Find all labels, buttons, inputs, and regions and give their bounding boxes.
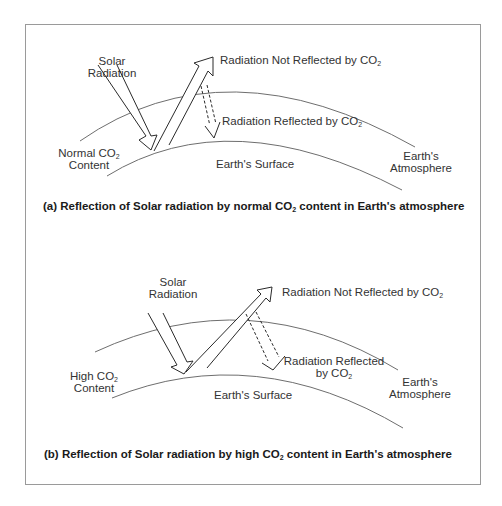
label-text: by CO: [316, 367, 349, 379]
label-text: Normal CO: [58, 147, 116, 159]
not-reflected-label: Radiation Not Reflected by CO2: [282, 286, 443, 298]
label-text: Radiation Not Reflected by CO: [282, 286, 439, 298]
subscript: 2: [439, 292, 443, 299]
diagram-canvas: [0, 0, 502, 506]
label-line: Normal CO2: [54, 147, 124, 159]
caption-text: content in Earth's atmosphere: [284, 448, 452, 460]
label-text: High CO: [70, 370, 114, 382]
solar-radiation-label: Solar Radiation: [147, 276, 199, 300]
subscript: 2: [377, 60, 381, 67]
earth-atmosphere-label: Earth's Atmosphere: [385, 376, 455, 400]
co2-content-label: High CO2 Content: [64, 370, 124, 394]
solar-radiation-arrow: [148, 313, 193, 374]
label-line: Solar: [86, 55, 138, 67]
label-line: Solar: [147, 276, 199, 288]
not-reflected-arrow: [154, 57, 213, 151]
label-line: Earth's: [385, 376, 455, 388]
reflected-label: Radiation Reflected by CO2: [222, 115, 362, 127]
subscript: 2: [114, 376, 118, 383]
earth-surface-label: Earth's Surface: [216, 158, 294, 170]
subscript: 2: [348, 373, 352, 380]
label-line: Atmosphere: [386, 162, 456, 174]
label-text: Radiation Not Reflected by CO: [220, 54, 377, 66]
reflected-label: Radiation Reflected by CO2: [282, 355, 386, 379]
not-reflected-label: Radiation Not Reflected by CO2: [220, 54, 381, 66]
earth-surface-curve: [112, 375, 403, 428]
earth-surface-label: Earth's Surface: [214, 389, 292, 401]
subscript: 2: [358, 121, 362, 128]
caption-text: (a) Reflection of Solar radiation by nor…: [43, 200, 292, 212]
label-line: Content: [54, 159, 124, 171]
caption-text: content in Earth's atmosphere: [296, 200, 464, 212]
co2-content-label: Normal CO2 Content: [54, 147, 124, 171]
label-line: Content: [64, 382, 124, 394]
caption-b: (b) Reflection of Solar radiation by hig…: [44, 448, 452, 460]
label-line: Atmosphere: [385, 388, 455, 400]
caption-text: (b) Reflection of Solar radiation by hig…: [44, 448, 280, 460]
label-line: Radiation: [147, 288, 199, 300]
label-line: Radiation Reflected: [282, 355, 386, 367]
label-text: Radiation Reflected by CO: [222, 115, 358, 127]
caption-a: (a) Reflection of Solar radiation by nor…: [43, 200, 464, 212]
subscript: 2: [116, 153, 120, 160]
earth-atmosphere-label: Earth's Atmosphere: [386, 150, 456, 174]
solar-radiation-label: Solar Radiation: [86, 55, 138, 79]
label-line: Radiation: [86, 67, 138, 79]
label-line: Earth's: [386, 150, 456, 162]
label-line: by CO2: [282, 367, 386, 379]
label-line: High CO2: [64, 370, 124, 382]
